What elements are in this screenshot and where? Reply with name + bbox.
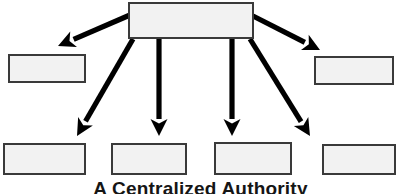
arrow-to-left-middle-head bbox=[58, 31, 77, 47]
node-left-middle-label bbox=[10, 56, 84, 81]
node-left-middle[interactable] bbox=[8, 54, 86, 83]
arrow-to-left-middle bbox=[58, 13, 131, 47]
node-bottom-three-label bbox=[216, 144, 290, 173]
node-bottom-four[interactable] bbox=[322, 144, 396, 175]
node-root[interactable] bbox=[128, 2, 254, 39]
arrow-to-bottom-four bbox=[248, 38, 310, 136]
node-bottom-two[interactable] bbox=[111, 143, 187, 175]
node-bottom-three[interactable] bbox=[214, 142, 292, 175]
node-right-middle-label bbox=[316, 58, 392, 83]
arrow-to-bottom-four-shaft bbox=[248, 38, 303, 123]
arrow-to-bottom-two-head bbox=[151, 119, 168, 136]
node-bottom-one[interactable] bbox=[3, 143, 86, 175]
arrow-to-bottom-two-shaft bbox=[156, 39, 161, 119]
diagram-caption: A Centralized Authority bbox=[0, 178, 401, 194]
arrow-to-bottom-one bbox=[77, 38, 135, 136]
arrow-to-bottom-three bbox=[224, 39, 241, 136]
node-bottom-one-label bbox=[5, 145, 84, 173]
diagram-canvas: A Centralized Authority bbox=[0, 0, 401, 194]
arrow-to-right-middle bbox=[252, 14, 320, 50]
arrow-to-bottom-one-shaft bbox=[83, 38, 135, 123]
arrow-to-bottom-three-head bbox=[224, 119, 241, 136]
node-root-label bbox=[130, 4, 252, 37]
arrow-to-bottom-two bbox=[151, 39, 168, 136]
arrow-to-right-middle-head bbox=[301, 35, 320, 50]
arrow-to-bottom-one-head bbox=[77, 117, 93, 136]
node-bottom-two-label bbox=[113, 145, 185, 173]
arrow-to-right-middle-shaft bbox=[252, 14, 306, 45]
arrow-to-left-middle-shaft bbox=[73, 13, 131, 42]
node-right-middle[interactable] bbox=[314, 56, 394, 85]
arrow-to-bottom-four-head bbox=[294, 117, 310, 136]
node-bottom-four-label bbox=[324, 146, 394, 173]
arrow-to-bottom-three-shaft bbox=[229, 39, 234, 119]
